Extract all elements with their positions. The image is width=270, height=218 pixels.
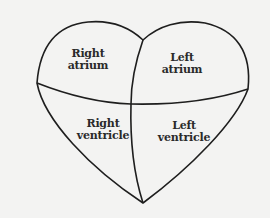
label-right-ventricle: Right ventricle	[77, 118, 130, 142]
label-left-atrium: Left atrium	[162, 52, 203, 76]
atrioventricular-divider	[37, 83, 248, 104]
label-right-ventricle-line2: ventricle	[77, 130, 130, 142]
label-left-ventricle: Left ventricle	[158, 120, 211, 144]
heart-outline-graphic	[0, 0, 270, 218]
label-right-atrium-line2: atrium	[68, 60, 109, 72]
label-left-atrium-line2: atrium	[162, 64, 203, 76]
septum-divider	[131, 40, 143, 203]
label-right-atrium: Right atrium	[68, 48, 109, 72]
heart-diagram: Right atrium Left atrium Right ventricle…	[0, 0, 270, 218]
label-left-ventricle-line2: ventricle	[158, 132, 211, 144]
